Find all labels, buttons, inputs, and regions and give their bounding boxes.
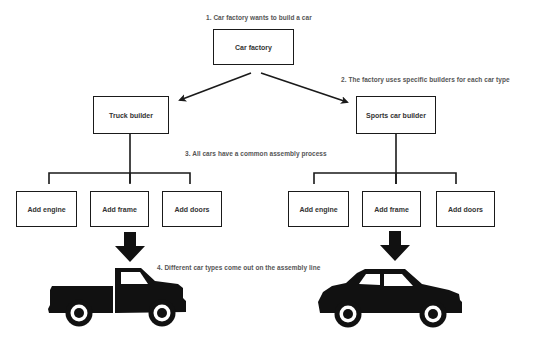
- step-4-note: 4. Different car types come out on the a…: [157, 264, 320, 271]
- sports-add-doors-node: Add doors: [436, 191, 495, 227]
- pickup-truck-icon: [48, 268, 186, 327]
- down-arrow-sports-icon: [380, 231, 410, 261]
- arrow-factory-to-sports-builder: [261, 73, 347, 102]
- truck-builder-node: Truck builder: [93, 96, 169, 134]
- step-1-note: 1. Car factory wants to build a car: [206, 14, 312, 21]
- sedan-car-icon: [318, 269, 462, 328]
- truck-add-doors-node: Add doors: [162, 191, 222, 227]
- arrow-factory-to-truck-builder: [180, 73, 251, 100]
- car-factory-node: Car factory: [213, 29, 294, 65]
- truck-add-engine-node: Add engine: [16, 191, 77, 227]
- truck-add-frame-node: Add frame: [90, 191, 149, 227]
- sports-add-engine-node: Add engine: [288, 191, 349, 227]
- step-3-note: 3. All cars have a common assembly proce…: [185, 150, 327, 157]
- truck-assembly-bracket: [49, 133, 190, 184]
- down-arrow-truck-icon: [115, 232, 145, 262]
- step-2-note: 2. The factory uses specific builders fo…: [341, 76, 510, 83]
- sports-add-frame-node: Add frame: [362, 191, 421, 227]
- sports-assembly-bracket: [314, 133, 456, 184]
- sports-car-builder-node: Sports car builder: [356, 96, 436, 134]
